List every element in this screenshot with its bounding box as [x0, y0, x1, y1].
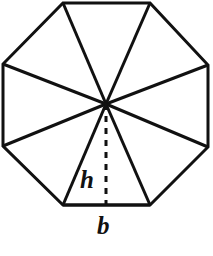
height-label-h: h [80, 167, 94, 192]
octagon-figure: h b [0, 0, 213, 256]
base-label-b: b [97, 213, 110, 238]
